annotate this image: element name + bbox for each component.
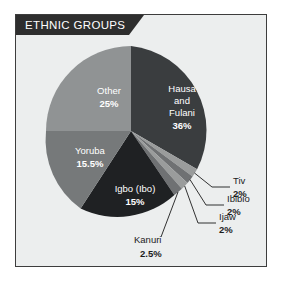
slice-label-hausa-line1: Hausa [168, 83, 196, 94]
callout-pct-kanuri: 2.5% [140, 248, 162, 259]
slice-label-other: Other [97, 85, 121, 96]
slice-pct-yoruba: 15.5% [77, 158, 104, 169]
leader-line-tiv [195, 173, 231, 187]
slice-pct-other: 25% [99, 98, 119, 109]
slice-label-hausa-line3: Fulani [169, 107, 195, 118]
slice-label-yoruba: Yoruba [75, 145, 105, 156]
slice-label-igbo: Igbo (Ibo) [115, 183, 156, 194]
ethnic-groups-chart-panel: Hausa and Fulani 36% Other 25% Yoruba 15… [15, 14, 267, 267]
callout-pct-ijaw: 2% [219, 224, 233, 235]
slice-pct-hausa: 36% [172, 120, 192, 131]
page-title: ETHNIC GROUPS [25, 17, 125, 33]
callout-label-ibibio: Ibibio [227, 193, 250, 204]
callout-label-tiv: Tiv [233, 175, 246, 186]
callout-label-ijaw: Ijaw [219, 211, 236, 222]
pie-chart: Hausa and Fulani 36% Other 25% Yoruba 15… [16, 15, 266, 266]
callout-label-kanuri: Kanuri [134, 234, 161, 245]
slice-pct-igbo: 15% [125, 196, 145, 207]
pie-chart-svg: Hausa and Fulani 36% Other 25% Yoruba 15… [16, 15, 265, 265]
slice-label-hausa-line2: and [174, 95, 190, 106]
leader-line-ijaw [185, 186, 216, 223]
